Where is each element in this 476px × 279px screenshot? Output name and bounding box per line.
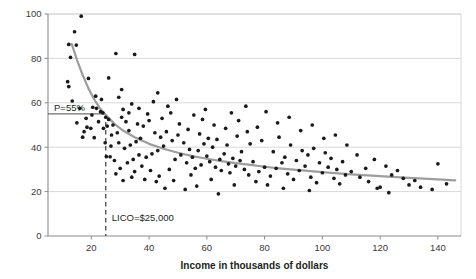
data-point [193, 166, 197, 170]
data-point [387, 191, 391, 195]
data-point [107, 118, 111, 122]
data-point [208, 160, 212, 164]
data-point [413, 179, 417, 183]
chart-canvas: 02040608010020406080100120140Income in t… [0, 0, 476, 279]
data-point [111, 123, 115, 127]
x-tick-label-140: 140 [430, 242, 446, 253]
data-point [219, 169, 223, 173]
data-point [127, 129, 131, 133]
data-point [384, 164, 388, 168]
data-point [104, 155, 108, 159]
data-point [92, 136, 96, 140]
data-point [78, 107, 82, 111]
data-point [280, 161, 284, 165]
data-point [430, 188, 434, 192]
data-point [154, 180, 158, 184]
data-point [133, 53, 137, 57]
data-point [300, 149, 304, 153]
data-point [170, 139, 174, 143]
data-point [108, 155, 112, 159]
data-point [114, 52, 118, 56]
data-point [178, 122, 182, 126]
data-point [323, 151, 327, 155]
data-point [257, 170, 261, 174]
data-point [85, 125, 89, 129]
data-point [245, 130, 249, 134]
data-point [117, 95, 121, 99]
data-point [176, 133, 180, 137]
data-point [227, 162, 231, 166]
data-point [199, 163, 203, 167]
data-point [283, 155, 287, 159]
data-point [235, 134, 239, 138]
data-point [115, 131, 119, 135]
data-point [105, 124, 109, 128]
data-point [159, 135, 163, 139]
data-point [390, 173, 394, 177]
cut-off-y-axis-label [36, 0, 39, 7]
data-point [156, 91, 160, 95]
data-point [84, 116, 88, 120]
data-point [326, 165, 330, 169]
data-point [147, 119, 151, 123]
data-point [156, 149, 160, 153]
data-point [243, 168, 247, 172]
data-point [191, 155, 195, 159]
data-point [230, 111, 234, 115]
data-point [188, 148, 192, 152]
data-point [130, 102, 134, 106]
y-tick-label-20: 20 [31, 186, 42, 197]
data-point [69, 55, 73, 59]
data-point [263, 165, 267, 169]
data-point [120, 115, 124, 119]
data-point [95, 107, 99, 111]
data-point [120, 88, 124, 92]
data-point [74, 43, 78, 47]
x-tick-label-120: 120 [372, 242, 388, 253]
data-point [364, 166, 368, 170]
data-point [334, 133, 338, 137]
data-point [117, 141, 121, 145]
data-point [238, 159, 242, 163]
data-point [185, 161, 189, 165]
data-point [128, 143, 132, 147]
data-point [204, 108, 208, 112]
data-point [189, 173, 193, 177]
data-point [303, 164, 307, 168]
data-point [254, 180, 258, 184]
annotations: P=55%LICO=$25,000 [48, 102, 174, 236]
data-point [131, 158, 135, 162]
data-point [175, 98, 179, 102]
y-tick-label-40: 40 [31, 142, 42, 153]
data-point [173, 158, 177, 162]
data-point [329, 156, 333, 160]
data-point [165, 130, 169, 134]
data-point [192, 113, 196, 117]
data-point [335, 168, 339, 172]
data-point [396, 169, 400, 173]
data-point [244, 104, 248, 108]
data-point [206, 136, 210, 140]
data-point [121, 179, 125, 183]
data-point [231, 156, 235, 160]
data-point [141, 124, 145, 128]
y-tick-label-100: 100 [26, 8, 42, 19]
data-point [144, 155, 148, 159]
data-point [237, 119, 241, 123]
data-point [79, 14, 83, 18]
data-point [269, 174, 273, 178]
data-point [70, 99, 74, 103]
data-point [232, 183, 236, 187]
data-point [344, 173, 348, 177]
data-point [256, 125, 260, 129]
data-point [355, 153, 359, 157]
data-point [309, 175, 313, 179]
data-point [195, 184, 199, 188]
data-point [130, 175, 134, 179]
data-point [82, 130, 86, 134]
data-point [89, 126, 93, 130]
data-point [169, 111, 173, 115]
data-point [224, 126, 228, 130]
data-point [107, 76, 111, 80]
data-point [126, 161, 130, 165]
